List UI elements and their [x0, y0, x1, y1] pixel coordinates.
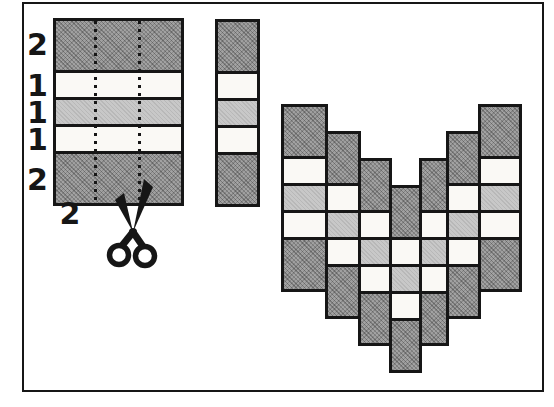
stripe-light	[284, 186, 325, 210]
stripe-dark	[328, 134, 358, 183]
chevron-column-4	[389, 185, 422, 373]
scissors-blade-left	[115, 193, 133, 232]
stripe-dark	[284, 240, 325, 289]
stripe-dark	[481, 240, 519, 289]
stripe-light	[218, 101, 257, 125]
stripe-white	[422, 267, 446, 291]
stripe-light	[449, 213, 478, 237]
stripe-dark	[481, 107, 519, 156]
stripe-white	[218, 74, 257, 98]
chevron-column-5	[419, 158, 449, 346]
stripe-white	[481, 159, 519, 183]
stripe-white	[422, 213, 446, 237]
stripe-white	[328, 186, 358, 210]
stripe-dark	[392, 188, 419, 237]
scissors-blade-right	[133, 179, 153, 232]
stripe-white	[481, 213, 519, 237]
stripe-dark	[422, 161, 446, 210]
cut-strip	[215, 19, 260, 207]
chevron-column-6	[446, 131, 481, 319]
stripe-light	[392, 267, 419, 291]
stripe-white	[449, 240, 478, 264]
stripe-white	[392, 294, 419, 318]
stripe-dark	[218, 155, 257, 204]
stripe-dark	[56, 21, 181, 70]
stripe-white	[392, 240, 419, 264]
strip-width-label: 2	[56, 198, 84, 230]
stripe-white	[284, 159, 325, 183]
stripe-dark	[361, 294, 389, 343]
stripe-dark	[328, 267, 358, 316]
stripe-white	[449, 186, 478, 210]
scissors-pivot	[129, 228, 137, 236]
measure-label: 1	[24, 124, 50, 156]
stripe-light	[422, 240, 446, 264]
chevron-column-3	[358, 158, 392, 346]
stripe-dark	[449, 134, 478, 183]
scissors-icon	[100, 176, 164, 270]
stripe-dark	[218, 22, 257, 71]
chevron-column-1	[281, 104, 328, 292]
stripe-light	[481, 186, 519, 210]
diagram-canvas: 21112 2	[0, 0, 554, 407]
stripe-dark	[284, 107, 325, 156]
stripe-light	[361, 240, 389, 264]
measure-label: 2	[24, 29, 50, 61]
stripe-white	[284, 213, 325, 237]
stripe-dark	[361, 161, 389, 210]
stripe-white	[56, 73, 181, 97]
stripe-white	[328, 240, 358, 264]
stripe-dark	[449, 267, 478, 316]
scissors-handle-right	[136, 247, 155, 266]
chevron-column-7	[478, 104, 522, 292]
stripe-dark	[422, 294, 446, 343]
stripe-white	[56, 127, 181, 151]
stripe-white	[218, 128, 257, 152]
measure-label: 2	[24, 164, 50, 196]
stripe-white	[361, 213, 389, 237]
stripe-white	[361, 267, 389, 291]
chevron-column-2	[325, 131, 361, 319]
stripe-light	[328, 213, 358, 237]
scissors-handle-left	[110, 246, 129, 265]
stripe-dark	[392, 321, 419, 370]
cut-line-dotted	[94, 21, 97, 203]
stripe-light	[56, 100, 181, 124]
